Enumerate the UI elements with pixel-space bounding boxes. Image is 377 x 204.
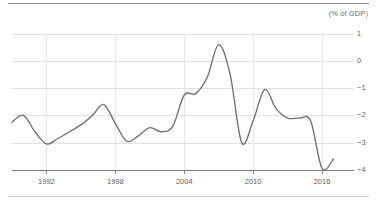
- ytick-label-0: 0: [357, 56, 361, 65]
- line-chart-plot: [0, 0, 377, 204]
- ytick-label--1: −1: [357, 83, 366, 92]
- series-group: [12, 45, 334, 170]
- xtick-label-1998: 1998: [98, 177, 132, 186]
- ytick-label-1: 1: [357, 29, 361, 38]
- gridlines-group: [12, 35, 345, 171]
- axis-group: [47, 35, 355, 174]
- ytick-label--2: −2: [357, 110, 366, 119]
- series-line-0: [12, 45, 334, 170]
- xtick-label-2004: 2004: [167, 177, 201, 186]
- ytick-label--3: −3: [357, 138, 366, 147]
- vertical-gridlines-group: [47, 34, 323, 170]
- chart-figure: (% of GDP) 10−1−2−3−4 199219982004201020…: [0, 0, 377, 204]
- xtick-label-2010: 2010: [236, 177, 270, 186]
- xtick-label-2016: 2016: [305, 177, 339, 186]
- ytick-label--4: −4: [357, 165, 366, 174]
- xtick-label-1992: 1992: [29, 177, 63, 186]
